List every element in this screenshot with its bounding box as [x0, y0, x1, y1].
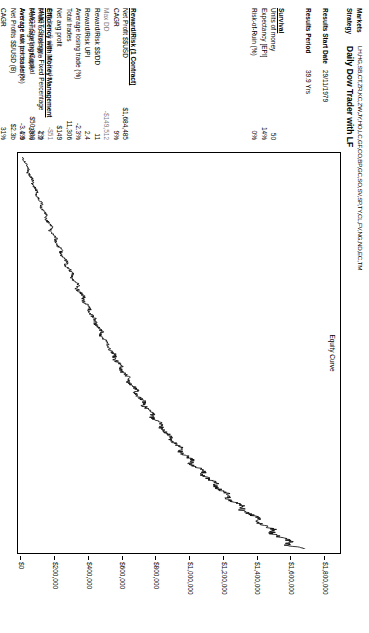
- stat-row: Average risk per trade (%) -3.4%: [17, 8, 26, 140]
- y-tick: $1,800,000: [322, 556, 329, 595]
- stat-key: Average risk per trade (%): [19, 8, 26, 84]
- stat-key: MMGT Strategy - Fixed Percentage: [38, 8, 45, 110]
- stat-row: Net Profits $$/USD (B) $2.3b: [7, 8, 16, 140]
- y-tick-label: $1,400,000: [254, 562, 261, 595]
- stat-row: CAGR 31%: [0, 8, 7, 140]
- stat-value: 31%: [0, 127, 7, 140]
- stat-row: Expectancy [EPI] 14%: [258, 8, 267, 140]
- chart-y-axis: $1,800,000 $1,600,000 $1,400,000 $1,200,…: [17, 556, 341, 628]
- y-tick-label: $800,000: [153, 562, 160, 589]
- stat-key: Net avg profit: [56, 8, 63, 47]
- results-period-label: Results Period: [305, 8, 312, 54]
- stat-key: Net Profits $$/USD (B): [10, 8, 17, 73]
- y-tick-label: $1,200,000: [221, 562, 228, 595]
- y-tick: $1,000,000: [187, 556, 194, 595]
- stats-block-survival: Survival Units of money 50 Expectancy [E…: [249, 8, 285, 140]
- stat-value: $2.3b: [10, 124, 17, 140]
- y-tick: $1,600,000: [288, 556, 295, 595]
- stat-value: $1,684,485: [122, 107, 129, 140]
- stat-key: CAGR: [113, 8, 120, 27]
- stat-value: $50,000: [29, 117, 36, 141]
- stats-block-title: Reward/Risk (1 Contract): [130, 8, 137, 140]
- y-tick: $1,200,000: [221, 556, 228, 595]
- report-page: Markets LH,HG,SB,CT,ZR,KC,ZW,JY,HO,LC,GF…: [0, 0, 369, 633]
- y-tick-label: $0: [18, 562, 25, 569]
- stat-row: Net avg profit $149: [54, 8, 63, 140]
- y-tick-label: $600,000: [119, 562, 126, 589]
- results-start-date-label: Results Start Date: [322, 8, 329, 64]
- stat-value: 2.4: [84, 131, 91, 140]
- y-tick-label: $200,000: [52, 562, 59, 589]
- stat-row: Max DD -$149,512: [101, 8, 110, 140]
- stat-row: MMGT Starting Capital $50,000: [26, 8, 35, 140]
- stat-key: Reward/Risk UPI: [84, 8, 91, 57]
- stat-row: Reward/Risk UPI 2.4: [82, 8, 91, 140]
- stat-key: Reward/Risk $$/DD: [94, 8, 101, 65]
- stat-value: 0%: [251, 131, 258, 140]
- chart-legend: Equity Curve: [329, 334, 336, 371]
- stat-row: Average losing trade (%) -2.3%: [73, 8, 82, 140]
- markets-label: Markets: [356, 8, 363, 33]
- stat-key: Average losing trade (%): [75, 8, 82, 79]
- y-tick-label: $1,800,000: [322, 562, 329, 595]
- stats-block-title: Efficiency with Money Management: [46, 8, 53, 140]
- y-tick: $600,000: [119, 556, 126, 589]
- stat-key: Max DD: [103, 8, 110, 31]
- stat-key: CAGR: [0, 8, 7, 27]
- stat-key: Total trades: [66, 8, 73, 42]
- strategy-value: Daily Dow Trader with LF: [345, 46, 355, 147]
- stat-value: $149: [56, 126, 63, 140]
- chart-plot-area: [22, 157, 324, 549]
- stat-value: -$149,512: [103, 111, 110, 140]
- stats-block-efficiency: Efficiency with Money Management MMGT St…: [0, 8, 53, 140]
- y-tick-label: $400,000: [86, 562, 93, 589]
- y-tick-label: $1,000,000: [187, 562, 194, 595]
- stat-value: 2%: [38, 131, 45, 140]
- y-tick: $200,000: [52, 556, 59, 589]
- stat-value: -3.4%: [19, 123, 26, 140]
- strategy-label: Strategy: [346, 8, 353, 34]
- y-tick: $1,400,000: [254, 556, 261, 595]
- stat-value: -2.3%: [75, 123, 82, 140]
- equity-curve-svg: [22, 157, 324, 549]
- stat-row: Reward/Risk $$/DD 11: [91, 8, 100, 140]
- stat-row: Net Profit $$USD $1,684,485: [120, 8, 129, 140]
- stat-row: Total trades 11,306: [63, 8, 72, 140]
- stat-value: 14%: [261, 127, 268, 140]
- stat-row: Risk-of-Ruin (%) 0%: [249, 8, 258, 140]
- stat-value: 11: [94, 133, 101, 140]
- stat-key: Units of money: [270, 8, 277, 51]
- stat-row: MMGT Strategy - Fixed Percentage 2%: [36, 8, 45, 140]
- stat-value: 50: [270, 133, 277, 140]
- y-tick: $0: [18, 556, 25, 569]
- stat-key: MMGT Starting Capital: [29, 8, 36, 74]
- results-period-value: 39.9 Yrs: [305, 70, 312, 94]
- stat-key: Expectancy [EPI]: [261, 8, 268, 58]
- stat-value: 11,306: [66, 121, 73, 140]
- stat-row: CAGR 9%: [110, 8, 119, 140]
- y-tick: $400,000: [86, 556, 93, 589]
- results-start-date-value: 29/11/1979: [322, 70, 329, 102]
- stat-value: 9%: [113, 131, 120, 140]
- stat-key: Net Profit $$USD: [122, 8, 129, 58]
- stat-row: Units of money 50: [268, 8, 277, 140]
- stat-key: Risk-of-Ruin (%): [251, 8, 258, 56]
- report-body: Markets LH,HG,SB,CT,ZR,KC,ZW,JY,HO,LC,GF…: [0, 0, 369, 633]
- equity-curve-chart: Equity Curve: [17, 152, 341, 554]
- y-tick: $800,000: [153, 556, 160, 589]
- stats-block-title: Survival: [278, 8, 285, 140]
- y-tick-label: $1,600,000: [288, 562, 295, 595]
- markets-value: LH,HG,SB,CT,ZR,KC,ZW,JY,HO,LC,GF,CO,BP,G…: [357, 46, 364, 270]
